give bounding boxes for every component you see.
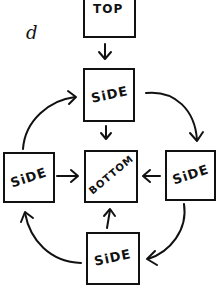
node-bottom-label: BOTTOM (87, 153, 136, 196)
node-side-bottom: SiDE (86, 232, 140, 285)
arrow-side-top-to-bottom (101, 126, 111, 139)
node-side-top-label: SiDE (90, 83, 130, 105)
node-side-right-label: SiDE (171, 162, 211, 188)
node-side-bottom-label: SiDE (93, 246, 133, 268)
arrow-side-left-to-bottom (57, 170, 78, 182)
node-side-left: SiDE (3, 152, 55, 203)
diagram-canvas: d TOP SiDE SiDE BOTTOM SiDE SiDE (0, 0, 221, 292)
arrow-top-to-side-top (99, 44, 111, 59)
arrow-side-right-to-bottom (143, 170, 160, 182)
arrow-side-top-to-side-right (146, 93, 203, 141)
panel-label: d (26, 22, 38, 43)
node-side-right: SiDE (165, 150, 216, 201)
arrow-side-bottom-to-bottom (104, 209, 115, 228)
node-side-left-label: SiDE (9, 165, 49, 191)
arrow-side-right-to-side-bottom (147, 204, 185, 265)
arrow-side-bottom-to-side-left (21, 212, 81, 263)
node-bottom: BOTTOM (84, 150, 138, 203)
node-top: TOP (83, 0, 136, 38)
arrow-side-left-to-side-top (23, 91, 76, 149)
node-top-label: TOP (93, 2, 123, 16)
node-side-top: SiDE (83, 68, 135, 122)
